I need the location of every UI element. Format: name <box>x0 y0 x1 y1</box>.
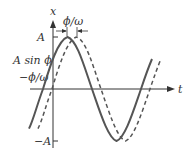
x-axis-arrow-icon <box>50 20 56 28</box>
label-neg-phi-omega: −ϕ/ω <box>19 71 48 84</box>
label-neg-A: −A <box>34 135 51 148</box>
label-A: A <box>36 31 45 44</box>
t-axis-label: t <box>178 83 183 96</box>
arrowhead-icon <box>77 29 82 33</box>
phase-shift-label: ϕ/ω <box>63 15 83 28</box>
label-A-sin-phi: A sin ϕ <box>12 54 52 67</box>
sine-phase-diagram: t x A A sin ϕ −ϕ/ω −A ϕ/ω <box>0 0 195 157</box>
t-axis-arrow-icon <box>167 86 175 92</box>
x-axis-label: x <box>50 5 57 18</box>
arrowhead-icon <box>62 29 67 33</box>
